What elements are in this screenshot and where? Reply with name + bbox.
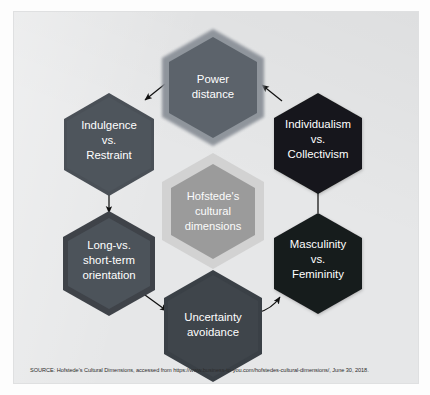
hofstede-cultural-dimensions-diagram: Power distance Individualism vs. Collect… [14,12,418,383]
node-indulgence-vs-restraint[interactable]: Indulgence vs. Restraint [64,93,154,196]
indulgence-label-line-1: Indulgence [81,119,137,131]
uncertainty-avoidance-label-line-2: avoidance [187,326,239,338]
indulgence-label-line-3: Restraint [86,149,132,161]
center-label-line-3: dimensions [185,220,242,232]
indulgence-label-line-2: vs. [102,134,117,146]
node-center-hofstedes-cultural-dimensions[interactable]: Hofstede's cultural dimensions [162,153,264,269]
node-power-distance[interactable]: Power distance [162,29,264,146]
center-label-line-1: Hofstede's [187,190,240,202]
masculinity-label-line-1: Masculinity [290,238,347,250]
power-distance-label-line-2: distance [192,88,234,100]
masculinity-label-line-2: vs. [311,253,326,265]
uncertainty-avoidance-label-line-1: Uncertainty [184,311,242,323]
long-term-label-line-3: orientation [82,269,135,281]
node-individualism-vs-collectivism[interactable]: Individualism vs. Collectivism [274,93,362,194]
individualism-label-line-1: Individualism [285,118,351,130]
long-term-label-line-2: short-term [83,254,135,266]
figure-root: Power distance Individualism vs. Collect… [0,0,430,395]
source-citation: SOURCE: Hofstede's Cultural Dimensions, … [30,366,410,374]
arrow-long-term-to-uncertainty [145,295,167,311]
power-distance-label-line-1: Power [197,73,229,85]
long-term-label-line-1: Long-vs. [87,239,131,251]
individualism-label-line-2: vs. [311,133,326,145]
individualism-label-line-3: Collectivism [288,148,349,160]
node-masculinity-vs-femininity[interactable]: Masculinity vs. Femininity [274,213,362,314]
arrow-individualism-to-power-distance [262,85,282,101]
center-label-line-2: cultural [195,205,231,217]
masculinity-label-line-3: Femininity [292,268,344,280]
node-long-vs-short-term-orientation[interactable]: Long-vs. short-term orientation [63,211,155,316]
